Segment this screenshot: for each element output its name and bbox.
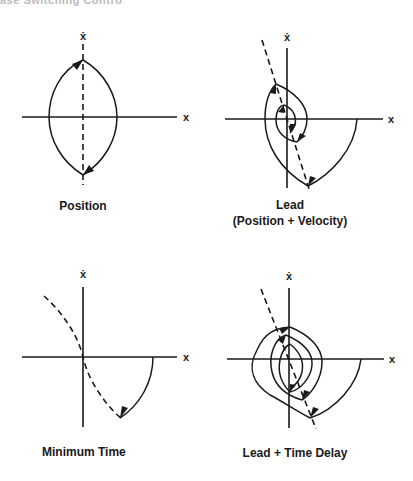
panel-position: x ẋ Position (22, 30, 190, 213)
x-axis-label: x (388, 113, 395, 125)
panel-subtitle: (Position + Velocity) (233, 214, 347, 228)
trajectory-middle-left (271, 335, 302, 400)
arrow-head-icon (297, 133, 306, 142)
panel-title: Lead + Time Delay (243, 446, 348, 460)
panel-title: Minimum Time (42, 445, 126, 459)
xdot-axis-label: ẋ (80, 268, 87, 280)
x-axis-label: x (183, 111, 190, 123)
x-axis-label: x (183, 351, 190, 363)
arrow-head-icon (120, 406, 128, 418)
trajectory-start (308, 119, 357, 186)
panel-lead-time-delay: x ẋ Lead + Time Delay (227, 270, 396, 460)
trajectory-inner-right (290, 344, 303, 386)
arrow-head-icon (270, 84, 276, 94)
trajectory-middle-right (286, 335, 312, 392)
x-axis-label: x (389, 353, 396, 365)
trajectory-outer-right (290, 327, 322, 400)
xdot-axis-label: ẋ (286, 270, 293, 282)
panel-title: Position (59, 199, 106, 213)
arrow-head-icon (83, 165, 94, 175)
xdot-axis-label: ẋ (284, 31, 291, 43)
arrow-head-icon (72, 60, 83, 70)
panel-minimum-time: x ẋ Minimum Time (22, 268, 190, 459)
xdot-axis-label: ẋ (80, 30, 87, 42)
panel-title: Lead (276, 198, 304, 212)
panel-lead: x ẋ Lead (Position + Velocity) (225, 31, 395, 228)
